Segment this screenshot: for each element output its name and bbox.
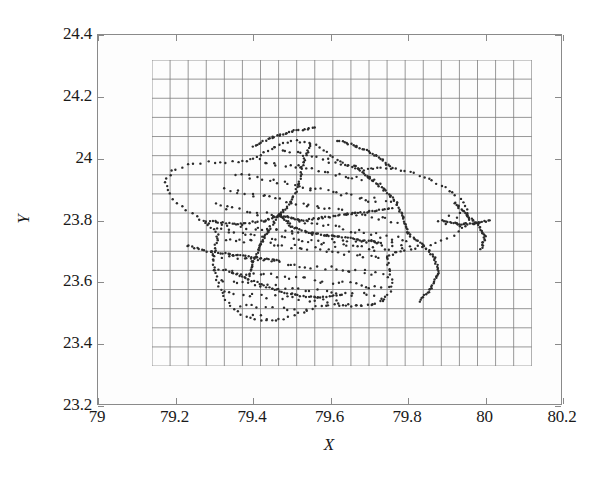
scatter-point: [339, 160, 341, 162]
x-tick-0: [98, 398, 99, 404]
scatter-point: [260, 219, 262, 221]
scatter-point: [302, 219, 304, 221]
scatter-point: [331, 291, 333, 293]
scatter-point: [401, 247, 403, 249]
scatter-point: [390, 167, 392, 169]
scatter-point: [290, 139, 292, 141]
scatter-point: [300, 171, 302, 173]
scatter-point: [283, 218, 285, 220]
scatter-point: [318, 206, 320, 208]
scatter-point: [210, 226, 212, 228]
scatter-point: [341, 208, 343, 210]
scatter-point: [345, 213, 347, 215]
x-tick-label-6: 80.2: [548, 407, 577, 427]
scatter-point: [376, 209, 378, 211]
scatter-point: [240, 222, 242, 224]
scatter-point: [337, 158, 339, 160]
y-tick-5: [555, 97, 561, 98]
scatter-point: [387, 276, 389, 278]
scatter-point: [429, 253, 431, 255]
scatter-point: [390, 221, 392, 223]
scatter-point: [247, 281, 249, 283]
scatter-point: [236, 192, 238, 194]
scatter-point: [271, 287, 273, 289]
scatter-point: [229, 252, 231, 254]
scatter-point: [453, 234, 455, 236]
scatter-point: [260, 154, 262, 156]
scatter-point: [219, 161, 221, 163]
scatter-point: [323, 207, 325, 209]
scatter-point: [265, 306, 267, 308]
scatter-point: [327, 157, 329, 159]
scatter-point: [262, 139, 264, 141]
scatter-point: [271, 319, 273, 321]
scatter-point: [368, 210, 370, 212]
scatter-point: [334, 245, 336, 247]
scatter-point: [302, 164, 304, 166]
scatter-point: [466, 212, 468, 214]
scatter-point: [382, 300, 384, 302]
scatter-point: [244, 222, 246, 224]
scatter-point: [222, 280, 224, 282]
scatter-point: [335, 191, 337, 193]
scatter-point: [414, 247, 416, 249]
scatter-point: [381, 297, 383, 299]
scatter-point: [215, 221, 217, 223]
scatter-point: [220, 204, 222, 206]
scatter-point: [391, 241, 393, 243]
scatter-point: [428, 177, 430, 179]
scatter-point: [482, 244, 484, 246]
scatter-point: [294, 218, 296, 220]
scatter-point: [276, 216, 278, 218]
scatter-point: [257, 214, 259, 216]
x-tick-5: [486, 35, 487, 41]
scatter-point: [451, 191, 453, 193]
scatter-point: [224, 298, 226, 300]
scatter-point: [272, 306, 274, 308]
scatter-point: [389, 165, 391, 167]
scatter-point: [298, 238, 300, 240]
scatter-point: [431, 179, 433, 181]
scatter-point: [466, 215, 468, 217]
scatter-point: [363, 148, 365, 150]
scatter-point: [232, 254, 234, 256]
scatter-point: [329, 216, 331, 218]
scatter-point: [370, 240, 372, 242]
scatter-point: [252, 314, 254, 316]
scatter-point: [266, 211, 268, 213]
scatter-point: [314, 296, 316, 298]
scatter-point: [172, 198, 174, 200]
scatter-point: [362, 256, 364, 258]
scatter-point: [288, 203, 290, 205]
scatter-point: [472, 219, 474, 221]
scatter-point: [277, 244, 279, 246]
scatter-point: [217, 251, 219, 253]
x-tick-2: [253, 35, 254, 41]
y-tick-5: [98, 97, 104, 98]
scatter-point: [233, 293, 235, 295]
scatter-point: [409, 245, 411, 247]
x-tick-label-1: 79.2: [160, 407, 189, 427]
scatter-point: [358, 229, 360, 231]
scatter-point: [284, 275, 286, 277]
scatter-point: [281, 290, 283, 292]
scatter-point: [215, 202, 217, 204]
scatter-point: [337, 302, 339, 304]
scatter-point: [366, 293, 368, 295]
scatter-point: [270, 272, 272, 274]
scatter-point: [405, 223, 407, 225]
scatter-point: [391, 244, 393, 246]
scatter-point: [338, 281, 340, 283]
scatter-point: [477, 224, 479, 226]
scatter-point: [382, 159, 384, 161]
scatter-point: [248, 173, 250, 175]
scatter-point: [314, 279, 316, 281]
scatter-point: [369, 152, 371, 154]
scatter-point: [371, 216, 373, 218]
scatter-point: [319, 248, 321, 250]
scatter-point: [363, 291, 365, 293]
scatter-point: [263, 273, 265, 275]
scatter-point: [380, 242, 382, 244]
scatter-point: [265, 286, 267, 288]
scatter-point: [370, 273, 372, 275]
